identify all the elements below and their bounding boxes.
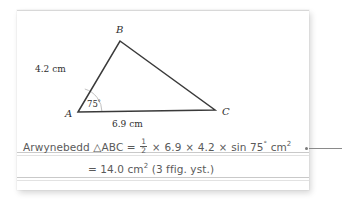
working-line-2: = 14.0 cm2 (3 ffig. yst.) <box>17 162 309 175</box>
sine-term: sin 75 <box>231 141 263 153</box>
units-1: cm <box>271 141 287 153</box>
working-line-1: Arwynebedd △ABC = 12 × 6.9 × 4.2 × sin 7… <box>23 138 315 155</box>
triangle-symbol-icon: △ <box>93 141 101 153</box>
vertex-label-a: A <box>64 108 72 119</box>
equals-sign-1: = <box>127 141 136 153</box>
multiply-sign-3: × <box>218 142 227 153</box>
triangle-svg: A B C 4.2 cm 6.9 cm 75° <box>17 10 309 135</box>
equals-sign-2: = <box>88 163 97 175</box>
vertex-label-c: C <box>222 106 230 117</box>
area-word: Arwynebedd <box>23 141 90 153</box>
multiply-sign-2: × <box>185 142 194 153</box>
side-label-ab: 4.2 cm <box>35 64 66 74</box>
fraction-numerator: 1 <box>140 138 147 146</box>
ruled-line-2-shadow <box>17 180 309 181</box>
angle-degree-symbol: ° <box>98 98 101 105</box>
significant-figures-note: (3 ffig. yst.) <box>152 163 214 175</box>
ruled-line-1-shadow <box>17 155 309 156</box>
screenshot-stage: A B C 4.2 cm 6.9 cm 75° Arwynebedd △ABC … <box>0 0 342 207</box>
angle-label-a: 75° <box>87 98 101 110</box>
fraction-denominator: 2 <box>140 146 147 155</box>
height-value: 4.2 <box>198 141 215 153</box>
units-exponent-1: 2 <box>287 140 292 148</box>
half-fraction: 12 <box>140 138 147 155</box>
result-value: 14.0 <box>100 163 124 175</box>
vertex-label-b: B <box>115 24 123 35</box>
triangle-name: ABC <box>102 141 124 153</box>
multiply-sign-1: × <box>152 142 161 153</box>
side-label-ac: 6.9 cm <box>112 119 143 129</box>
base-value: 6.9 <box>164 141 181 153</box>
angle-value: 75 <box>87 99 98 109</box>
working-out-area: Arwynebedd △ABC = 12 × 6.9 × 4.2 × sin 7… <box>17 132 309 190</box>
units-2: cm <box>127 163 143 175</box>
triangle-diagram: A B C 4.2 cm 6.9 cm 75° <box>17 10 309 135</box>
callout-dot <box>305 147 308 150</box>
callout-leader-line <box>309 148 342 149</box>
ruled-line-2 <box>17 177 309 178</box>
